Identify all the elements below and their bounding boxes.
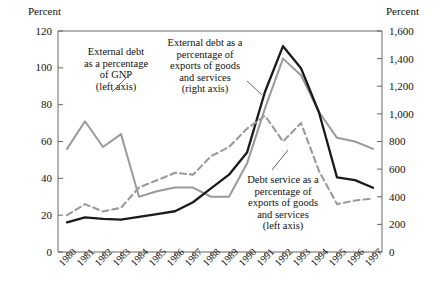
y-axis-ticks-left [58, 31, 63, 252]
data-series-layer [67, 46, 373, 222]
chart-figure: Percent Percent 120 100 80 60 40 20 0 1,… [0, 0, 445, 299]
series-line-2 [67, 116, 373, 215]
y-axis-ticks-right [377, 31, 382, 252]
series-line-0 [67, 59, 373, 197]
